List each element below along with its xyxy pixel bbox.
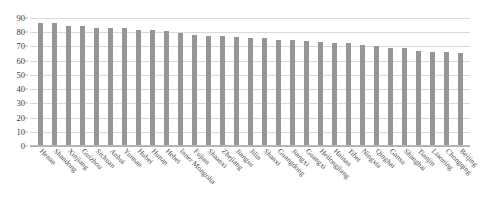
bar-slot (425, 18, 439, 145)
bar-slot (355, 18, 369, 145)
bar-slot (411, 18, 425, 145)
x-label-slot: Zhejiang (215, 148, 229, 216)
y-axis-tick-mark (25, 18, 28, 19)
x-label-slot: Anhui (103, 148, 117, 216)
bar (262, 38, 267, 145)
x-label-slot: Inner Mongolia (173, 148, 187, 216)
y-axis-tick-label: 70 (17, 42, 26, 51)
bar (206, 36, 211, 146)
x-label-slot: Shandong (47, 148, 61, 216)
bar-slot (117, 18, 131, 145)
x-axis-labels: HenanShandongXinjiangGuizhouSichuanAnhui… (30, 148, 470, 216)
gridline (30, 146, 470, 147)
y-axis-tick-label: 40 (17, 85, 26, 94)
y-axis-tick-mark (25, 117, 28, 118)
bar (444, 52, 449, 145)
x-label-slot: Jiangsu (229, 148, 243, 216)
bar-slot (215, 18, 229, 145)
y-axis-tick-label: 80 (17, 28, 26, 37)
bar (164, 31, 169, 145)
bar (234, 37, 239, 145)
bar-slot (397, 18, 411, 145)
x-label-slot: Hainan (327, 148, 341, 216)
bar-series (30, 18, 470, 145)
x-label-slot: Qinghai (369, 148, 383, 216)
y-axis-tick-label: 60 (17, 56, 26, 65)
bar (402, 48, 407, 145)
y-axis-tick-label: 30 (17, 99, 26, 108)
bar-slot (271, 18, 285, 145)
x-label-slot: Gansu (383, 148, 397, 216)
bar-slot (285, 18, 299, 145)
bar-slot (453, 18, 467, 145)
y-axis: 0102030405060708090 (0, 18, 28, 146)
bar (346, 43, 351, 145)
bar-slot (47, 18, 61, 145)
x-label-slot: Guangxi (299, 148, 313, 216)
bar-slot (439, 18, 453, 145)
x-label-slot: Tianjin (411, 148, 425, 216)
bar (52, 23, 57, 145)
bar (94, 28, 99, 145)
bar (388, 48, 393, 145)
bar (304, 41, 309, 145)
x-label-slot: Hubei (131, 148, 145, 216)
bar (248, 38, 253, 145)
bar (80, 26, 85, 145)
bar (458, 53, 463, 145)
bar-slot (257, 18, 271, 145)
x-label-slot: Fujian (187, 148, 201, 216)
bar-slot (299, 18, 313, 145)
y-axis-tick-label: 90 (17, 14, 26, 23)
bar (136, 30, 141, 145)
bar-slot (383, 18, 397, 145)
x-label-slot: Ningxia (355, 148, 369, 216)
y-axis-tick-mark (25, 60, 28, 61)
y-axis-tick-mark (25, 46, 28, 47)
bar (318, 42, 323, 145)
bar-slot (201, 18, 215, 145)
bar (430, 52, 435, 145)
bar-slot (187, 18, 201, 145)
x-label-slot: Chongqing (439, 148, 453, 216)
x-label-slot: Xinjiang (61, 148, 75, 216)
bar-slot (61, 18, 75, 145)
plot-area (30, 18, 470, 146)
x-label-slot: Jiangxi (285, 148, 299, 216)
x-label-slot: Hebei (159, 148, 173, 216)
x-label-slot: Liaoning (425, 148, 439, 216)
y-axis-tick-label: 50 (17, 71, 26, 80)
y-axis-tick-label: 10 (17, 128, 26, 137)
x-label-slot: Jilin (243, 148, 257, 216)
y-axis-tick-mark (25, 32, 28, 33)
x-label-slot: Beijing (453, 148, 467, 216)
bar-slot (341, 18, 355, 145)
bar-slot (33, 18, 47, 145)
x-label-slot: Tibet (341, 148, 355, 216)
x-label-slot: Shanghai (397, 148, 411, 216)
x-label-slot: Hunan (145, 148, 159, 216)
bar (374, 46, 379, 145)
bar-slot (103, 18, 117, 145)
bar-slot (75, 18, 89, 145)
bar (38, 23, 43, 145)
x-label-slot: Yunnan (117, 148, 131, 216)
y-axis-tick-mark (25, 89, 28, 90)
bar-slot (89, 18, 103, 145)
bar (276, 40, 281, 145)
bar (290, 40, 295, 145)
bar (150, 30, 155, 145)
x-label-slot: Guangdong (271, 148, 285, 216)
bar-slot (243, 18, 257, 145)
y-axis-tick-mark (25, 103, 28, 104)
x-label-slot: Guizhou (75, 148, 89, 216)
bar (178, 33, 183, 145)
bar (360, 45, 365, 145)
bar-slot (145, 18, 159, 145)
bar-slot (327, 18, 341, 145)
bar (108, 28, 113, 145)
bar (66, 26, 71, 145)
x-label-slot: Shanxi (257, 148, 271, 216)
bar-slot (313, 18, 327, 145)
